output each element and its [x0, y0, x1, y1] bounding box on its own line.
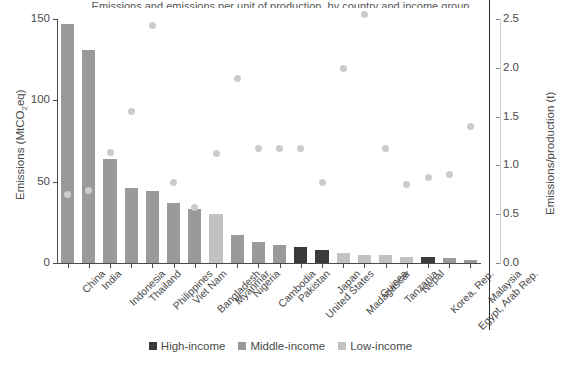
chart-title-clipped: Emissions and emissions per unit of prod… — [0, 0, 561, 8]
bar-philippines[interactable] — [146, 191, 159, 263]
bar-united-states[interactable] — [294, 247, 307, 263]
y-axis-left-label: Emissions (MtCO2eq) — [14, 89, 29, 200]
bar-japan[interactable] — [315, 250, 328, 263]
y-axis-right-tick-label: 1.5 — [503, 111, 519, 122]
y-axis-left-tick-label: 50 — [37, 176, 50, 187]
bar-malaysia[interactable] — [464, 260, 477, 263]
y-axis-right-tick-label: 1.0 — [503, 159, 519, 170]
dot-thailand[interactable] — [128, 108, 135, 115]
bar-madagascar[interactable] — [337, 253, 350, 263]
bar-cambodia[interactable] — [252, 242, 265, 263]
dot-united-states[interactable] — [297, 145, 304, 152]
dot-malaysia[interactable] — [467, 123, 474, 130]
dot-cambodia[interactable] — [255, 145, 262, 152]
dot-guinea[interactable] — [361, 11, 368, 18]
chart-legend: High-incomeMiddle-incomeLow-income — [0, 340, 561, 352]
dot-madagascar[interactable] — [340, 65, 347, 72]
dot-pakistan[interactable] — [276, 145, 283, 152]
bar-bangladesh[interactable] — [188, 209, 201, 263]
y-axis-right-tick-label: 0.5 — [503, 208, 519, 219]
bar-viet-nam[interactable] — [167, 203, 180, 263]
legend-item-high-income[interactable]: High-income — [149, 340, 226, 352]
y-axis-right-label: Emissions/production (t) — [544, 92, 556, 215]
bar-myanmar[interactable] — [209, 214, 222, 263]
chart-figure: Emissions and emissions per unit of prod… — [0, 0, 561, 367]
bar-korea-rep[interactable] — [421, 257, 434, 264]
bar-pakistan[interactable] — [273, 245, 286, 263]
dot-philippines[interactable] — [149, 22, 156, 29]
bar-guinea[interactable] — [358, 255, 371, 263]
bar-tanzania[interactable] — [379, 255, 392, 263]
bar-indonesia[interactable] — [103, 159, 116, 263]
bar-nepal[interactable] — [400, 257, 413, 264]
bar-nigeria[interactable] — [231, 235, 244, 263]
legend-swatch-icon — [238, 342, 246, 350]
bar-india[interactable] — [82, 50, 95, 263]
legend-item-middle-income[interactable]: Middle-income — [238, 340, 325, 352]
y-axis-left-tick — [53, 263, 57, 264]
x-axis-label-nepal: Nepal — [419, 268, 446, 295]
dot-korea-rep[interactable] — [425, 174, 432, 181]
y-axis-left-tick-label: 100 — [31, 94, 50, 105]
legend-item-low-income[interactable]: Low-income — [338, 340, 412, 352]
y-axis-right-tick-label: 2.0 — [503, 62, 519, 73]
legend-label: High-income — [161, 340, 226, 352]
y-axis-left-tick-label: 150 — [31, 13, 50, 24]
x-axis-labels: ChinaIndiaIndonesiaThailandPhilippinesVi… — [0, 266, 561, 336]
legend-label: Middle-income — [250, 340, 325, 352]
legend-swatch-icon — [338, 342, 346, 350]
legend-label: Low-income — [350, 340, 412, 352]
bar-egypt-arab-rep[interactable] — [443, 258, 456, 263]
y-axis-right-line — [500, 19, 501, 264]
dot-viet-nam[interactable] — [170, 179, 177, 186]
dot-myanmar[interactable] — [213, 150, 220, 157]
dot-egypt-arab-rep[interactable] — [446, 171, 453, 178]
plot-area — [57, 19, 481, 263]
dot-indonesia[interactable] — [107, 149, 114, 156]
dot-nigeria[interactable] — [234, 75, 241, 82]
bottom-axis-spine — [57, 263, 481, 264]
legend-swatch-icon — [149, 342, 157, 350]
y-axis-right-tick-label: 2.5 — [503, 13, 519, 24]
bar-china[interactable] — [61, 24, 74, 263]
dot-japan[interactable] — [319, 179, 326, 186]
bar-thailand[interactable] — [125, 188, 138, 263]
dot-nepal[interactable] — [403, 181, 410, 188]
dot-tanzania[interactable] — [382, 145, 389, 152]
